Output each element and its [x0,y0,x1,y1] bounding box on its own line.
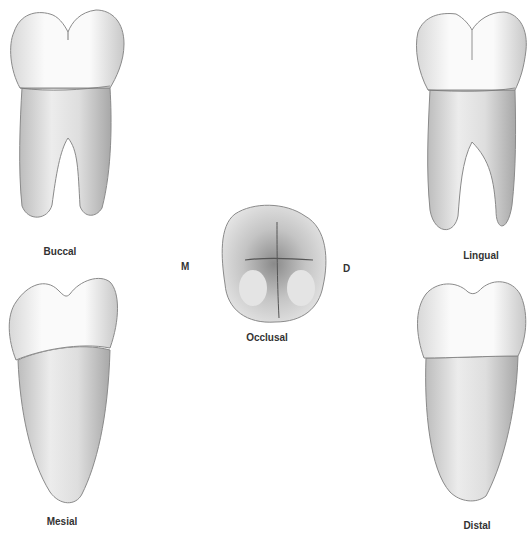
distal-direction-label: D [343,263,350,274]
mesial-view: Mesial [0,270,150,534]
mesial-tooth-illustration [0,270,150,505]
occlusal-tooth-illustration [205,200,340,330]
distal-label: Distal [463,520,490,531]
buccal-label: Buccal [44,246,77,257]
buccal-view: Buccal [0,0,140,260]
occlusal-view: Occlusal [205,200,340,350]
distal-view: Distal [400,270,532,534]
distal-tooth-illustration [400,270,532,510]
lingual-tooth-illustration [400,0,532,245]
lingual-view: Lingual [400,0,532,270]
buccal-tooth-illustration [0,0,140,240]
mesial-label: Mesial [47,516,78,527]
lingual-label: Lingual [463,250,499,261]
occlusal-label: Occlusal [246,332,288,343]
mesial-direction-label: M [181,261,189,272]
